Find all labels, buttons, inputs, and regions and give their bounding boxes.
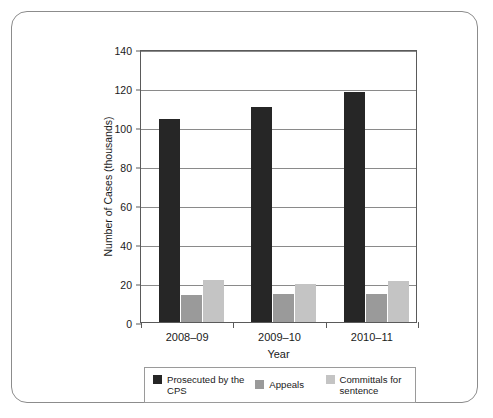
y-tick-label: 60 — [120, 201, 132, 213]
bar — [388, 281, 409, 322]
bar — [159, 119, 180, 322]
legend-swatch-icon — [153, 375, 162, 384]
y-tick-mark — [136, 129, 141, 130]
chart-legend: Prosecuted by the CPSAppealsCommittals f… — [144, 367, 416, 403]
legend-swatch-icon — [255, 380, 264, 389]
y-tick-mark — [136, 285, 141, 286]
y-gridline — [141, 129, 416, 130]
bar — [181, 295, 202, 322]
y-tick-mark — [136, 90, 141, 91]
x-tick-mark — [233, 322, 234, 328]
y-gridline — [141, 51, 416, 52]
y-tick-label: 140 — [114, 45, 132, 57]
bar — [366, 294, 387, 322]
y-tick-label: 80 — [120, 162, 132, 174]
plot-area: 0204060801001201402008–092009–102010–11 — [140, 50, 417, 323]
y-tick-label: 40 — [120, 240, 132, 252]
legend-label: Prosecuted by the CPS — [167, 374, 255, 397]
y-gridline — [141, 285, 416, 286]
x-tick-label: 2008–09 — [166, 331, 209, 343]
legend-label: Appeals — [269, 379, 304, 391]
y-gridline — [141, 246, 416, 247]
bar — [344, 92, 365, 322]
x-axis-title: Year — [140, 348, 417, 360]
y-tick-label: 120 — [114, 84, 132, 96]
figure-frame: Number of Cases (thousands) 020406080100… — [11, 11, 478, 403]
y-tick-label: 0 — [126, 318, 132, 330]
chart-page: Number of Cases (thousands) 020406080100… — [0, 0, 493, 418]
x-tick-mark — [326, 322, 327, 328]
y-tick-mark — [136, 207, 141, 208]
legend-swatch-icon — [326, 375, 335, 384]
legend-item[interactable]: Appeals — [255, 379, 325, 391]
x-tick-label: 2010–11 — [351, 331, 393, 343]
x-tick-mark — [141, 322, 142, 328]
legend-item[interactable]: Committals for sentence — [326, 374, 408, 397]
legend-item[interactable]: Prosecuted by the CPS — [153, 374, 255, 397]
y-tick-mark — [136, 168, 141, 169]
y-gridline — [141, 168, 416, 169]
bar — [295, 284, 316, 322]
y-tick-label: 20 — [120, 279, 132, 291]
legend-label: Committals for sentence — [340, 374, 408, 397]
y-gridline — [141, 90, 416, 91]
y-tick-label: 100 — [114, 123, 132, 135]
y-gridline — [141, 207, 416, 208]
x-tick-mark — [418, 322, 419, 328]
x-tick-label: 2009–10 — [258, 331, 301, 343]
bar — [203, 280, 224, 322]
y-tick-mark — [136, 51, 141, 52]
y-tick-mark — [136, 246, 141, 247]
bar — [273, 294, 294, 322]
bar — [251, 107, 272, 322]
